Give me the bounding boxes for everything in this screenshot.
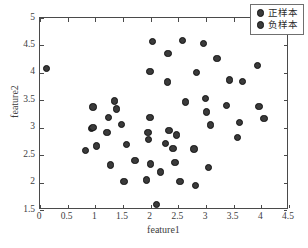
data-point	[192, 182, 199, 189]
data-point	[120, 178, 127, 185]
legend-item-negative[interactable]: 负样本	[257, 19, 298, 31]
data-point	[171, 159, 178, 166]
data-point	[143, 176, 150, 183]
y-axis-tick-label: 1.5	[2, 204, 35, 215]
x-axis-tick	[68, 205, 69, 209]
data-point	[200, 40, 207, 47]
x-axis-tick	[95, 205, 96, 209]
legend-marker-icon	[257, 21, 264, 28]
data-point	[123, 141, 130, 148]
data-point	[255, 103, 262, 110]
legend[interactable]: 正样本 负样本	[250, 4, 304, 35]
data-point	[153, 201, 160, 208]
x-axis-tick-label: 4.5	[273, 211, 303, 222]
x-axis-tick	[234, 205, 235, 209]
x-axis-tick	[68, 18, 69, 22]
data-point	[147, 160, 154, 167]
y-axis-tick-label: 4.5	[2, 39, 35, 50]
data-point	[111, 97, 118, 104]
y-axis-tick	[40, 45, 44, 46]
data-point	[165, 127, 172, 134]
data-point	[173, 131, 180, 138]
x-axis-tick	[40, 18, 41, 22]
data-point	[162, 140, 169, 147]
x-axis-tick-label: 1	[79, 211, 109, 222]
legend-marker-icon	[257, 9, 264, 16]
x-axis-tick	[206, 205, 207, 209]
data-point	[164, 78, 171, 85]
y-axis-tick	[284, 45, 288, 46]
x-axis-tick	[178, 18, 179, 22]
data-point	[260, 115, 267, 122]
x-axis-tick	[123, 205, 124, 209]
data-point	[131, 157, 138, 164]
legend-item-label: 负样本	[268, 19, 298, 31]
data-point	[254, 62, 261, 69]
legend-item-label: 正样本	[268, 7, 298, 19]
data-point	[176, 178, 183, 185]
data-point	[43, 65, 50, 72]
x-axis-tick	[261, 205, 262, 209]
x-axis-tick	[40, 205, 41, 209]
data-point	[203, 108, 210, 115]
y-axis-tick-label: 2	[2, 176, 35, 187]
data-point	[234, 134, 241, 141]
data-point	[82, 147, 89, 154]
data-point	[179, 37, 186, 44]
y-axis-tick	[40, 155, 44, 156]
data-point	[103, 129, 110, 136]
y-axis-tick	[40, 18, 44, 19]
data-point	[190, 145, 197, 152]
y-axis-tick	[284, 155, 288, 156]
y-axis-tick	[40, 183, 44, 184]
data-point	[169, 145, 176, 152]
y-axis-tick	[284, 73, 288, 74]
data-point	[149, 38, 156, 45]
x-axis-tick	[289, 205, 290, 209]
data-point	[144, 129, 151, 136]
axis-ticks-layer	[40, 18, 287, 208]
y-axis-tick	[284, 100, 288, 101]
x-axis-tick-label: 4	[245, 211, 275, 222]
data-point	[93, 142, 100, 149]
data-points-layer	[40, 18, 287, 208]
data-point	[182, 98, 189, 105]
data-point	[202, 95, 209, 102]
data-point	[88, 125, 95, 132]
data-point	[113, 105, 120, 112]
x-axis-tick	[123, 18, 124, 22]
data-point	[226, 76, 233, 83]
data-point	[145, 136, 152, 143]
y-axis-tick	[40, 128, 44, 129]
x-axis-tick-label: 1.5	[107, 211, 137, 222]
data-point	[239, 78, 246, 85]
data-point	[193, 69, 200, 76]
x-axis-title: feature1	[39, 224, 288, 235]
data-point	[213, 55, 220, 62]
y-axis-title: feature2	[9, 67, 20, 137]
x-axis-tick-label: 2.5	[162, 211, 192, 222]
data-point	[107, 161, 114, 168]
legend-item-positive[interactable]: 正样本	[257, 7, 298, 19]
x-axis-tick-label: 2	[135, 211, 165, 222]
y-axis-tick-label: 5	[2, 12, 35, 23]
y-axis-tick	[40, 100, 44, 101]
data-point	[118, 121, 125, 128]
data-point	[89, 124, 96, 131]
x-axis-tick-label: 0.5	[52, 211, 82, 222]
y-axis-tick	[40, 73, 44, 74]
x-axis-tick	[151, 18, 152, 22]
data-point	[146, 114, 153, 121]
data-point	[146, 68, 153, 75]
data-point	[223, 102, 230, 109]
x-axis-tick	[95, 18, 96, 22]
data-point	[89, 103, 96, 110]
y-axis-tick	[284, 128, 288, 129]
x-axis-tick	[234, 18, 235, 22]
x-axis-tick	[206, 18, 207, 22]
x-axis-tick	[151, 205, 152, 209]
plot-area	[39, 17, 288, 209]
data-point	[164, 50, 171, 57]
scatter-plot-figure: 00.511.522.533.544.5 1.522.533.544.55 fe…	[0, 0, 308, 248]
x-axis-tick-label: 3	[190, 211, 220, 222]
